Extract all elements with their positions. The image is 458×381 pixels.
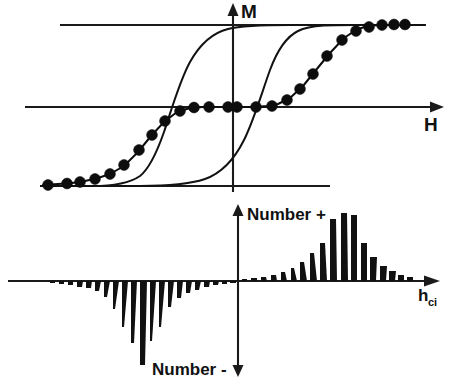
switching-field-distribution-plot: Number + Number - h ci [8, 204, 440, 379]
data-point [389, 19, 400, 30]
hist-bar [59, 281, 64, 284]
data-point [232, 102, 243, 113]
hist-bar [168, 281, 174, 307]
hist-bar [271, 275, 277, 281]
figure-container: M H [0, 0, 458, 381]
hist-bar [113, 281, 119, 309]
data-point [295, 84, 306, 95]
hist-bar [291, 268, 297, 281]
hist-bar [50, 281, 55, 283]
data-point [160, 116, 171, 127]
data-point [251, 102, 262, 113]
data-point [105, 169, 116, 180]
data-point [43, 180, 54, 191]
hci-axis-label-base: h [418, 286, 428, 305]
hci-axis-label-subscript: ci [428, 296, 437, 308]
hist-bar [251, 278, 257, 281]
data-point [134, 145, 145, 156]
hist-bar [380, 266, 387, 281]
data-point [147, 130, 158, 141]
hist-bar [68, 281, 73, 285]
hist-bar [222, 281, 227, 284]
data-point [377, 20, 388, 31]
hist-bar [104, 281, 110, 297]
hist-bar [186, 281, 192, 293]
hci-axis-arrow-icon [424, 276, 440, 287]
hist-bar [213, 281, 219, 285]
hist-bar [159, 281, 165, 327]
hist-bar [261, 277, 267, 281]
hist-bar [131, 281, 137, 343]
m-axis-label: M [241, 1, 257, 22]
data-point [400, 19, 411, 30]
hist-bar [320, 243, 327, 281]
data-point [282, 95, 293, 106]
hist-bar [310, 253, 317, 281]
hist-bar [398, 275, 404, 281]
hysteresis-plot: M H [25, 1, 444, 192]
data-point [119, 160, 130, 171]
hist-bar [230, 281, 236, 283]
hist-bar [407, 277, 413, 281]
data-point [322, 51, 333, 62]
hist-bar [300, 262, 307, 281]
hist-bar [242, 279, 247, 281]
data-point [62, 178, 73, 189]
data-point [351, 26, 362, 37]
number-axis-up-arrow-icon [233, 204, 244, 216]
hist-bar [95, 281, 101, 291]
hist-bar [341, 213, 348, 281]
h-axis-label: H [424, 114, 438, 135]
hist-bar [351, 215, 357, 281]
data-point [204, 102, 215, 113]
figure-svg: M H [0, 0, 458, 381]
data-point [337, 35, 348, 46]
data-point [90, 174, 101, 185]
hist-bar [77, 281, 83, 287]
hist-bar [204, 281, 210, 287]
data-point [267, 101, 278, 112]
data-point [75, 177, 86, 188]
data-point [175, 106, 186, 117]
data-point [308, 69, 319, 80]
negative-distribution-bars [50, 281, 236, 365]
hist-bar [86, 281, 92, 288]
data-point [189, 102, 200, 113]
hist-bar [177, 281, 183, 298]
hist-bar [330, 219, 337, 281]
hist-bar [281, 272, 287, 281]
number-negative-label: Number - [152, 360, 227, 379]
hist-bar [370, 257, 377, 281]
number-axis-down-arrow-icon [233, 365, 244, 377]
m-axis-arrow-icon [228, 3, 239, 16]
hist-bar [361, 243, 367, 281]
hist-bar [140, 281, 147, 365]
hist-bar [122, 281, 128, 327]
hist-bar [150, 281, 156, 341]
hist-bar [195, 281, 201, 290]
h-axis-arrow-icon [430, 102, 444, 113]
hist-bar [389, 271, 396, 281]
number-positive-label: Number + [247, 205, 326, 224]
data-point [364, 22, 375, 33]
